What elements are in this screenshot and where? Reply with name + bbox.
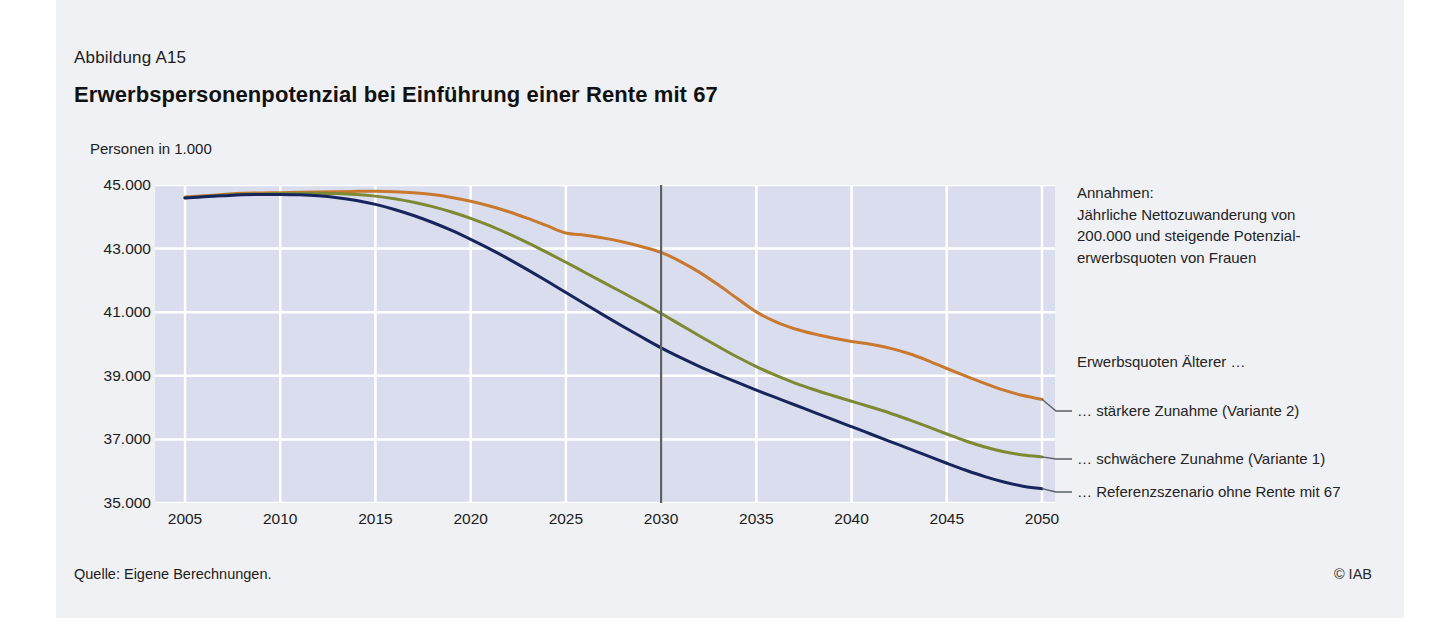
plot-area [155,185,1055,503]
assumptions-line-1: Annahmen: [1077,182,1377,204]
x-tick-label: 2025 [549,510,583,528]
chart-svg [155,185,1055,503]
x-tick-label: 2010 [263,510,297,528]
legend-heading: Erwerbsquoten Älterer … [1077,353,1245,370]
horizontal-gridlines [155,185,1055,503]
legend-item-variante-2: … stärkere Zunahme (Variante 2) [1077,402,1299,419]
assumptions-line-3: 200.000 und steigende Potenzial- [1077,225,1377,247]
y-tick-label: 39.000 [77,367,151,385]
figure-number: Abbildung A15 [74,48,186,68]
y-axis-tick-labels: 45.00043.00041.00039.00037.00035.000 [67,185,151,503]
x-tick-label: 2035 [739,510,773,528]
x-tick-label: 2040 [834,510,868,528]
source-note: Quelle: Eigene Berechnungen. [74,566,272,582]
y-tick-label: 37.000 [77,430,151,448]
y-tick-label: 35.000 [77,494,151,512]
copyright-note: © IAB [1334,566,1372,582]
figure-page: Abbildung A15 Erwerbspersonenpotenzial b… [0,0,1434,635]
y-tick-label: 41.000 [77,303,151,321]
x-tick-label: 2020 [453,510,487,528]
assumptions-line-2: Jährliche Nettozuwanderung von [1077,204,1377,226]
y-tick-label: 45.000 [77,176,151,194]
assumptions-note: Annahmen: Jährliche Nettozuwanderung von… [1077,182,1377,268]
y-axis-title: Personen in 1.000 [90,140,212,157]
page-title: Erwerbspersonenpotenzial bei Einführung … [74,82,718,108]
y-tick-label: 43.000 [77,240,151,258]
x-axis-tick-labels: 2005201020152020202520302035204020452050 [155,510,1055,534]
series-lines [185,191,1042,488]
x-tick-label: 2015 [358,510,392,528]
x-tick-label: 2005 [168,510,202,528]
x-tick-label: 2030 [644,510,678,528]
assumptions-line-4: erwerbsquoten von Frauen [1077,247,1377,269]
legend-item-referenzszenario: … Referenzszenario ohne Rente mit 67 [1077,483,1340,500]
legend-item-variante-1: … schwächere Zunahme (Variante 1) [1077,450,1325,467]
vertical-gridlines [185,185,1042,503]
x-tick-label: 2045 [930,510,964,528]
